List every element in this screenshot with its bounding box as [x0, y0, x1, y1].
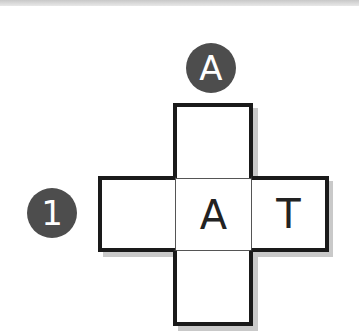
grid-cell-top[interactable]: [173, 103, 253, 179]
clue-label-down: A: [199, 48, 222, 88]
grid-cell-bottom[interactable]: [173, 250, 253, 326]
clue-badge-down: A: [186, 43, 236, 93]
grid-cell-left[interactable]: [98, 176, 176, 252]
top-edge: [0, 0, 359, 6]
cell-letter: A: [200, 192, 227, 238]
clue-badge-across: 1: [27, 188, 77, 238]
cell-letter: T: [276, 191, 300, 237]
grid-cell-right[interactable]: T: [251, 176, 329, 252]
clue-label-across: 1: [41, 193, 63, 233]
grid-cell-center[interactable]: A: [175, 178, 252, 251]
